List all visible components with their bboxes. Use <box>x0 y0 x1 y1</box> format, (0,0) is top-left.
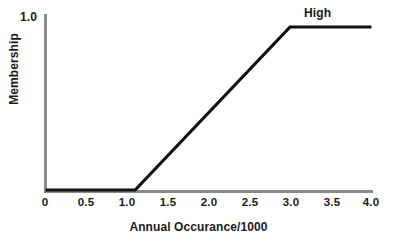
x-axis-tick-label-5: 2.5 <box>242 196 258 208</box>
x-axis-tick-label-7: 3.5 <box>324 196 340 208</box>
y-axis-tick-label-1: 1.0 <box>20 10 37 24</box>
x-axis-title: Annual Occurance/1000 <box>0 220 397 234</box>
x-axis-tick-label-2: 1.0 <box>119 196 135 208</box>
plot-area <box>0 0 397 246</box>
data-series-high <box>46 27 372 190</box>
x-axis-tick-label-8: 4.0 <box>363 196 379 208</box>
x-axis-tick-label-0: 0 <box>42 196 49 208</box>
x-axis-tick-label-1: 0.5 <box>78 196 94 208</box>
series-annotation-high: High <box>304 6 331 20</box>
y-axis-title: Membership <box>7 29 21 109</box>
membership-function-chart: 1.0 0 0.5 1.0 1.5 2.0 2.5 3.0 3.5 4.0 An… <box>0 0 397 246</box>
x-axis-tick-label-4: 2.0 <box>201 196 217 208</box>
x-axis-tick-label-3: 1.5 <box>160 196 176 208</box>
x-axis-tick-label-6: 3.0 <box>283 196 299 208</box>
